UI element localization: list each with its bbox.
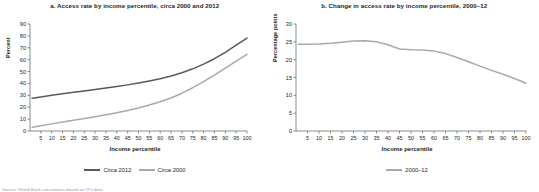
xtick-label: 35 [103, 135, 109, 141]
panel-b-svg: 0510152025305101520253035404550556065707… [270, 0, 539, 192]
xtick-label: 95 [233, 135, 239, 141]
ytick-label: 15 [285, 75, 291, 81]
xtick-label: 55 [146, 135, 152, 141]
xtick-label: 40 [114, 135, 120, 141]
xtick-label: 25 [81, 135, 87, 141]
xtick-label: 90 [500, 135, 506, 141]
ytick-label: 90 [20, 21, 26, 27]
xtick-label: 55 [419, 135, 425, 141]
panel-b-legend: 2000–12 [290, 167, 525, 173]
legend-label-2000-12: 2000–12 [405, 167, 428, 173]
legend-item-2000-12[interactable]: 2000–12 [386, 167, 428, 173]
ytick-label: 20 [285, 57, 291, 63]
xtick-label: 65 [442, 135, 448, 141]
xtick-label: 95 [511, 135, 517, 141]
legend-swatch-circa-2000 [139, 169, 155, 171]
xtick-label: 80 [477, 135, 483, 141]
panel-a-plot: 0102030405060708090510152025303540455055… [0, 0, 270, 192]
xtick-label: 70 [179, 135, 185, 141]
xtick-label: 30 [362, 135, 368, 141]
ytick-label: 30 [20, 92, 26, 98]
xtick-label: 80 [201, 135, 207, 141]
xtick-label: 20 [339, 135, 345, 141]
legend-item-circa-2012[interactable]: Circa 2012 [84, 167, 131, 173]
xtick-label: 70 [454, 135, 460, 141]
legend-item-circa-2000[interactable]: Circa 2000 [139, 167, 186, 173]
xtick-label: 5 [306, 135, 309, 141]
xtick-label: 100 [243, 135, 252, 141]
xtick-label: 60 [431, 135, 437, 141]
xtick-label: 60 [157, 135, 163, 141]
series-line [298, 41, 526, 83]
ytick-label: 10 [20, 116, 26, 122]
ytick-label: 25 [285, 39, 291, 45]
xtick-label: 30 [92, 135, 98, 141]
ytick-label: 30 [285, 21, 291, 27]
ytick-label: 60 [20, 57, 26, 63]
source-note: Source: World Bank calculations based on… [2, 187, 104, 192]
ytick-label: 0 [23, 128, 26, 134]
xtick-label: 85 [488, 135, 494, 141]
legend-label-circa-2000: Circa 2000 [158, 167, 186, 173]
xtick-label: 75 [190, 135, 196, 141]
xtick-label: 20 [70, 135, 76, 141]
ytick-label: 20 [20, 104, 26, 110]
legend-label-circa-2012: Circa 2012 [103, 167, 131, 173]
xtick-label: 50 [136, 135, 142, 141]
legend-swatch-2000-12 [386, 169, 402, 171]
ytick-label: 10 [285, 92, 291, 98]
xtick-label: 25 [350, 135, 356, 141]
xtick-label: 35 [373, 135, 379, 141]
chart-panel-b: b. Change in access rate by income perce… [270, 0, 539, 192]
xtick-label: 50 [408, 135, 414, 141]
xtick-label: 5 [39, 135, 42, 141]
xtick-label: 90 [222, 135, 228, 141]
figure: a. Access rate by income percentile, cir… [0, 0, 539, 192]
xtick-label: 100 [521, 135, 530, 141]
ytick-label: 80 [20, 33, 26, 39]
panel-b-xlabel: Income percentile [290, 146, 525, 152]
xtick-label: 15 [327, 135, 333, 141]
series-line [32, 54, 247, 127]
xtick-label: 10 [49, 135, 55, 141]
series-line [32, 38, 247, 98]
panel-a-svg: 0102030405060708090510152025303540455055… [0, 0, 270, 192]
xtick-label: 40 [385, 135, 391, 141]
xtick-label: 45 [396, 135, 402, 141]
ytick-label: 40 [20, 80, 26, 86]
xtick-label: 85 [211, 135, 217, 141]
xtick-label: 65 [168, 135, 174, 141]
xtick-label: 15 [60, 135, 66, 141]
xtick-label: 10 [316, 135, 322, 141]
xtick-label: 45 [125, 135, 131, 141]
ytick-label: 50 [20, 69, 26, 75]
panel-a-legend: Circa 2012 Circa 2000 [20, 167, 250, 173]
xtick-label: 75 [465, 135, 471, 141]
chart-panel-a: a. Access rate by income percentile, cir… [0, 0, 270, 192]
panel-b-plot: 0510152025305101520253035404550556065707… [270, 0, 539, 192]
ytick-label: 0 [288, 128, 291, 134]
ytick-label: 70 [20, 45, 26, 51]
ytick-label: 5 [288, 110, 291, 116]
panel-a-xlabel: Income percentile [20, 146, 250, 152]
legend-swatch-circa-2012 [84, 169, 100, 171]
